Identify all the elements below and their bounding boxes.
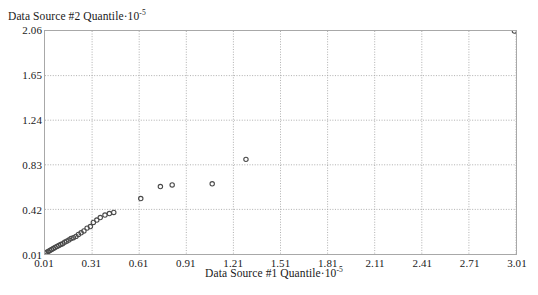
- x-axis-title: Data Source #1 Quantile·10-5: [0, 267, 538, 279]
- qq-plot-chart: Data Source #2 Quantile·10-5 2.061.651.2…: [0, 0, 538, 295]
- x-axis-title-text: Data Source #1 Quantile: [205, 267, 321, 279]
- x-axis-title-exponent: -5: [336, 265, 343, 274]
- x-axis-tick-labels: 0.010.310.610.911.211.511.812.112.412.71…: [0, 0, 538, 295]
